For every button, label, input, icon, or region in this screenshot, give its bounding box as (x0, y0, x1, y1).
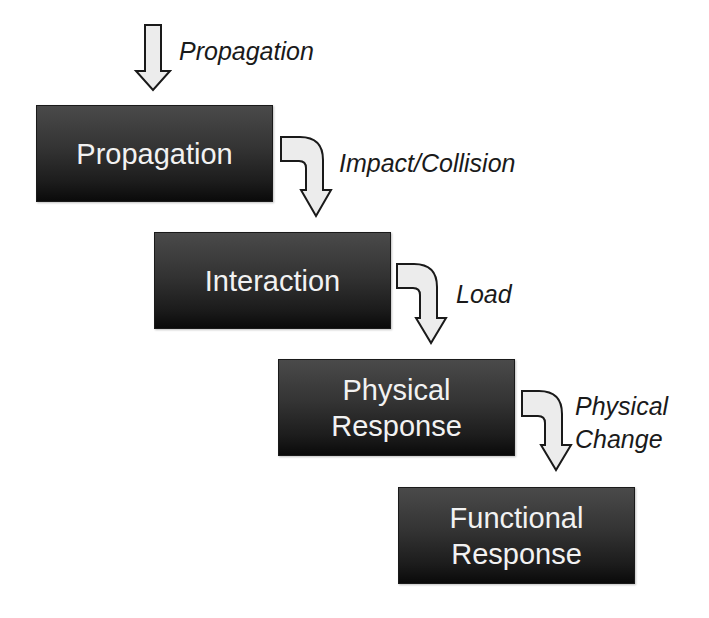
transition-label-text: Physical (575, 390, 668, 423)
transition-label-impact-collision: Impact/Collision (339, 148, 515, 179)
stage-box-physical-response: Physical Response (278, 359, 515, 456)
stage-label-line: Physical (331, 372, 462, 408)
stage-box-propagation: Propagation (36, 105, 273, 202)
entry-label: Propagation (179, 36, 314, 67)
curved-down-arrow-icon (397, 264, 446, 343)
entry-label-text: Propagation (179, 37, 314, 65)
transition-label-text: Load (456, 280, 512, 308)
stage-label-line: Response (450, 536, 584, 572)
transition-label-text: Impact/Collision (339, 149, 515, 177)
stage-box-interaction: Interaction (154, 232, 391, 329)
stage-label-line: Propagation (76, 136, 232, 172)
down-arrow-icon (136, 25, 170, 90)
transition-label-load: Load (456, 279, 512, 310)
transition-label-text: Change (575, 423, 668, 456)
transition-label-physical-change: Physical Change (575, 390, 668, 456)
flow-diagram: Propagation Propagation Interaction Phys… (0, 0, 709, 618)
stage-label-line: Interaction (205, 263, 340, 299)
stage-box-functional-response: Functional Response (398, 487, 635, 584)
curved-down-arrow-icon (281, 137, 331, 216)
stage-label-line: Functional (450, 500, 584, 536)
curved-down-arrow-icon (522, 391, 571, 470)
stage-label-line: Response (331, 408, 462, 444)
